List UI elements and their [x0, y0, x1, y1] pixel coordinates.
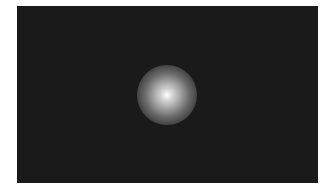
dark-image-panel — [17, 6, 318, 183]
light-glow-spot — [137, 65, 197, 125]
